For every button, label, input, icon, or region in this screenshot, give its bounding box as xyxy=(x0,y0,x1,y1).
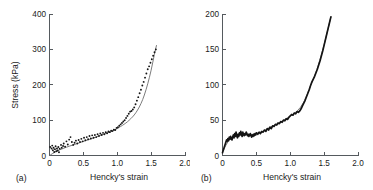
panel-a-y-axis-label: Stress (kPa) xyxy=(10,61,20,108)
panel-a-ytick-1: 100 xyxy=(32,116,46,125)
panel-a-data-markers xyxy=(49,48,157,153)
panel-a-y-ticks xyxy=(50,14,54,156)
panel-a-x-axis-label: Hencky's strain xyxy=(90,172,148,182)
panel-a-ytick-0: 0 xyxy=(41,152,46,161)
panel-b-xtick-4: 2.0 xyxy=(352,159,364,168)
panel-b-xtick-1: 0.5 xyxy=(251,159,263,168)
panel-b-y-ticks xyxy=(223,14,227,156)
panel-a-ytick-4: 400 xyxy=(32,10,46,19)
panel-a-xtick-3: 1.5 xyxy=(145,159,157,168)
panel-a-model-fit-line xyxy=(50,45,157,155)
panel-a-ytick-2: 200 xyxy=(32,81,46,90)
panel-a-xtick-0: 0 xyxy=(47,159,52,168)
panel-b-mean-response-line xyxy=(223,17,331,152)
panel-b-ytick-1: 50 xyxy=(210,116,220,125)
panel-a-x-ticks xyxy=(50,152,186,156)
panel-b-xtick-0: 0 xyxy=(220,159,225,168)
panel-b-xtick-3: 1.5 xyxy=(318,159,330,168)
panel-b-ytick-2: 100 xyxy=(205,81,219,90)
panel-b-ytick-3: 150 xyxy=(205,45,219,54)
panel-b-x-axis-label: Hencky's strain xyxy=(263,172,321,182)
chart-panel-b: 0 50 100 150 200 0 0.5 1.0 1.5 2.0 Henck… xyxy=(183,0,373,190)
panel-a-xtick-2: 1.0 xyxy=(112,159,124,168)
panel-a-plot: 0 100 200 300 400 0 0.5 1.0 1.5 2.0 Stre… xyxy=(0,0,190,190)
panel-b-ytick-4: 200 xyxy=(205,10,219,19)
panel-b-noisy-data-line xyxy=(223,17,331,153)
panel-b-ytick-0: 0 xyxy=(214,152,219,161)
panel-b-plot: 0 50 100 150 200 0 0.5 1.0 1.5 2.0 Henck… xyxy=(183,0,373,190)
panel-b-x-ticks xyxy=(223,152,359,156)
panel-b-xtick-2: 1.0 xyxy=(285,159,297,168)
panel-a-xtick-1: 0.5 xyxy=(78,159,90,168)
panel-a-tag: (a) xyxy=(16,173,27,183)
panel-b-tag: (b) xyxy=(201,173,212,183)
panel-a-ytick-3: 300 xyxy=(32,45,46,54)
chart-panel-a: 0 100 200 300 400 0 0.5 1.0 1.5 2.0 Stre… xyxy=(0,0,190,190)
figure-container: 0 100 200 300 400 0 0.5 1.0 1.5 2.0 Stre… xyxy=(0,0,373,190)
